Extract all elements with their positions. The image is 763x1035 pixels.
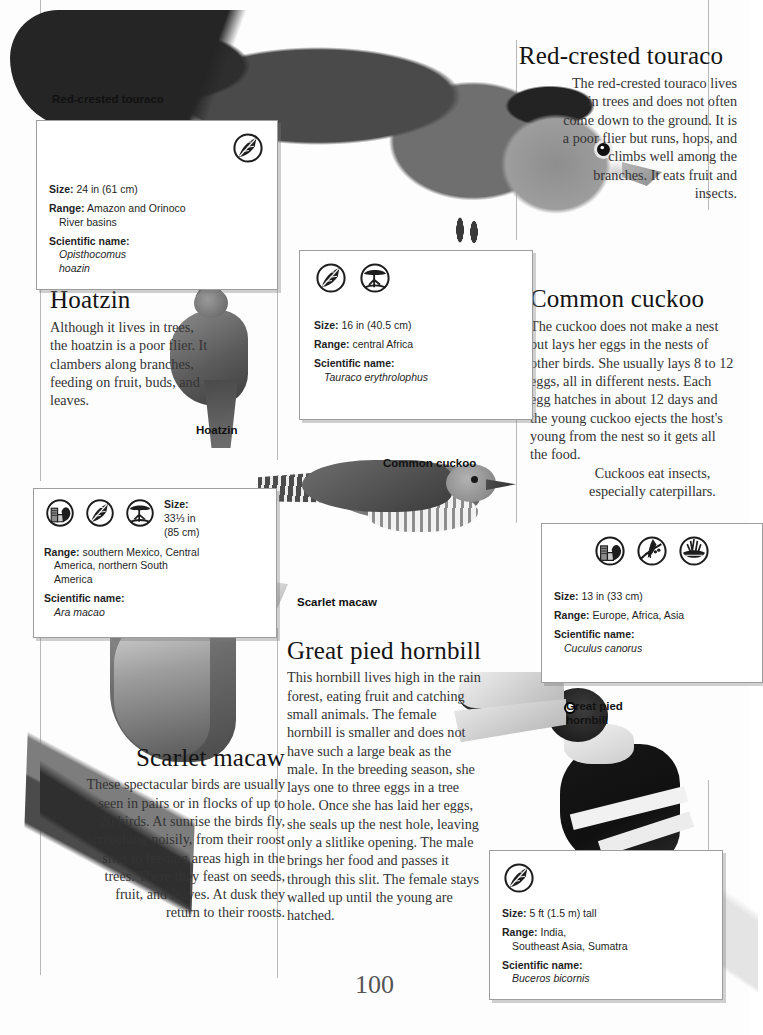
size-label: Size:: [502, 907, 527, 919]
sciname-label: Scientific name:: [314, 357, 395, 369]
sciname-value-2: hoazin: [49, 262, 265, 276]
sciname-label: Scientific name:: [44, 592, 125, 604]
factbox-hoatzin-lines: Size: 24 in (61 cm) Range: Amazon and Or…: [49, 183, 265, 276]
caption-common-cuckoo: Common cuckoo: [383, 456, 476, 470]
range-value: Europe, Africa, Asia: [593, 609, 685, 621]
range-label: Range:: [44, 546, 80, 558]
savanna-tree-icon: [358, 261, 392, 295]
factbox-hoatzin: Size: 24 in (61 cm) Range: Amazon and Or…: [36, 120, 278, 290]
article-macaw-title: Scarlet macaw: [85, 745, 285, 771]
article-hoatzin-body: Although it lives in trees, the hoatzin …: [50, 318, 210, 410]
touraco-foot: [448, 210, 494, 250]
factbox-touraco-sciname: Scientific name: Tauraco erythrolophus: [314, 357, 518, 385]
caption-scarlet-macaw: Scarlet macaw: [297, 595, 377, 609]
size-value-2: (85 cm): [164, 526, 200, 540]
sciname-label: Scientific name:: [554, 628, 635, 640]
article-hornbill: Great pied hornbill This hornbill lives …: [287, 638, 483, 925]
grassland-icon: [677, 534, 711, 568]
article-macaw: Scarlet macaw These spectacular birds ar…: [85, 745, 285, 922]
range-label: Range:: [49, 202, 85, 214]
size-label: Size:: [49, 183, 74, 195]
article-hoatzin: Hoatzin Although it lives in trees, the …: [50, 286, 210, 410]
sciname-label: Scientific name:: [502, 959, 583, 971]
factbox-touraco-lines: Size: 16 in (40.5 cm) Range: central Afr…: [314, 319, 518, 384]
factbox-cuckoo-sciname: Scientific name: Cuculus canorus: [554, 628, 750, 656]
size-value: 33⅓ in: [164, 512, 200, 526]
range-value: India,: [541, 926, 567, 938]
caption-great-pied-hornbill: Great pied hornbill: [566, 699, 623, 728]
sciname-label: Scientific name:: [49, 235, 130, 247]
size-value: 16 in (40.5 cm): [341, 319, 411, 331]
column-rule-left-2: [40, 276, 41, 481]
factbox-hoatzin-size: Size: 24 in (61 cm): [49, 183, 265, 197]
town-city-icon: [593, 534, 627, 568]
factbox-touraco-icons: [314, 261, 518, 295]
range-value: Amazon and Orinoco: [87, 202, 186, 214]
factbox-macaw: Size: 33⅓ in (85 cm) Range: southern Mex…: [33, 488, 277, 638]
size-value: 13 in (33 cm): [581, 590, 642, 602]
caption-red-crested-touraco: Red-crested touraco: [52, 92, 164, 106]
range-value: central Africa: [353, 338, 414, 350]
article-hornbill-body: This hornbill lives high in the rain for…: [287, 668, 483, 924]
sciname-value: Tauraco erythrolophus: [314, 371, 518, 385]
factbox-hoatzin-range: Range: Amazon and Orinoco River basins: [49, 202, 265, 230]
factbox-macaw-range: Range: southern Mexico, Central America,…: [44, 546, 266, 588]
factbox-hoatzin-icons: [49, 131, 265, 165]
article-macaw-body: These spectacular birds are usually seen…: [85, 775, 285, 922]
caption-hoatzin: Hoatzin: [196, 423, 238, 437]
article-touraco-body: The red-crested touraco lives in trees a…: [560, 74, 737, 202]
factbox-macaw-top: Size: 33⅓ in (85 cm): [44, 497, 266, 540]
factbox-hoatzin-sciname: Scientific name: Opisthocomus hoazin: [49, 235, 265, 277]
town-city-icon: [44, 497, 78, 531]
range-label: Range:: [502, 926, 538, 938]
article-cuckoo-title: Common cuckoo: [530, 285, 735, 313]
article-touraco-title: Red-crested touraco: [505, 42, 737, 70]
range-label: Range:: [314, 338, 350, 350]
size-value: 24 in (61 cm): [76, 183, 137, 195]
rainforest-leaf-icon: [502, 861, 536, 895]
range-value: southern Mexico, Central: [83, 546, 200, 558]
factbox-macaw-icons: [44, 497, 158, 531]
article-hornbill-title: Great pied hornbill: [287, 638, 483, 664]
factbox-macaw-lines: Range: southern Mexico, Central America,…: [44, 546, 266, 620]
rainforest-leaf-icon: [314, 261, 348, 295]
factbox-macaw-size: Size: 33⅓ in (85 cm): [164, 497, 200, 540]
range-label: Range:: [554, 609, 590, 621]
factbox-hornbill-size: Size: 5 ft (1.5 m) tall: [502, 907, 710, 921]
size-label: Size:: [164, 498, 189, 510]
size-label: Size:: [554, 590, 579, 602]
size-label: Size:: [314, 319, 339, 331]
article-cuckoo-body: The cuckoo does not make a nest but lays…: [530, 317, 735, 464]
article-cuckoo-body-2: Cuckoos eat insects, especially caterpil…: [570, 464, 735, 501]
cuckoo-eye: [471, 476, 478, 483]
sciname-value: Opisthocomus: [49, 248, 265, 262]
article-cuckoo: Common cuckoo The cuckoo does not make a…: [530, 285, 735, 500]
factbox-hornbill-icons: [502, 861, 710, 895]
factbox-cuckoo-lines: Size: 13 in (33 cm) Range: Europe, Afric…: [554, 590, 750, 655]
range-value-2: Southeast Asia, Sumatra: [502, 940, 710, 954]
factbox-cuckoo-range: Range: Europe, Africa, Asia: [554, 609, 750, 623]
size-value: 5 ft (1.5 m) tall: [529, 907, 596, 919]
sciname-value: Ara macao: [44, 606, 266, 620]
factbox-hornbill-range: Range: India, Southeast Asia, Sumatra: [502, 926, 710, 954]
range-value-3: America: [44, 573, 266, 587]
factbox-touraco-range: Range: central Africa: [314, 338, 518, 352]
touraco-illustration-tail: [10, 10, 270, 130]
factbox-cuckoo-size: Size: 13 in (33 cm): [554, 590, 750, 604]
article-hoatzin-title: Hoatzin: [50, 286, 210, 314]
page-number: 100: [0, 970, 749, 1000]
woodland-icon: [635, 534, 669, 568]
factbox-cuckoo: Size: 13 in (33 cm) Range: Europe, Afric…: [541, 523, 763, 683]
factbox-touraco: Size: 16 in (40.5 cm) Range: central Afr…: [299, 250, 533, 420]
article-touraco: Red-crested touraco The red-crested tour…: [505, 42, 737, 202]
rainforest-leaf-icon: [84, 497, 118, 531]
sciname-value: Cuculus canorus: [554, 642, 750, 656]
range-value-2: America, northern South: [44, 559, 266, 573]
factbox-touraco-size: Size: 16 in (40.5 cm): [314, 319, 518, 333]
factbox-macaw-sciname: Scientific name: Ara macao: [44, 592, 266, 620]
rainforest-leaf-icon: [231, 131, 265, 165]
factbox-cuckoo-icons: [554, 534, 750, 568]
range-value-2: River basins: [49, 216, 265, 230]
savanna-tree-icon: [124, 497, 158, 531]
